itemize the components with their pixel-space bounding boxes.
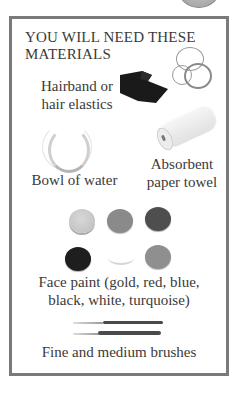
- paint-pot-turquoise-icon: [145, 245, 171, 269]
- hairband-label: Hairband or hair elastics: [32, 77, 122, 113]
- fine-brush-icon: [103, 321, 163, 324]
- paint-pot-blue-icon: [145, 207, 171, 231]
- fine-brush-tip-icon: [73, 322, 103, 324]
- towel-label-line2: paper towel: [142, 173, 222, 191]
- decorative-circle: [178, 0, 220, 8]
- bowl-icon: [48, 127, 90, 173]
- paint-label-line2: black, white, turquoise): [12, 291, 226, 309]
- hairband-label-line2: hair elastics: [32, 95, 122, 113]
- paint-label: Face paint (gold, red, blue, black, whit…: [12, 273, 226, 309]
- medium-brush-icon: [98, 331, 161, 335]
- brushes-label: Fine and medium brushes: [12, 343, 226, 361]
- paint-pot-red-icon: [107, 209, 133, 233]
- materials-panel: YOU WILL NEED THESE MATERIALS Hairband o…: [9, 16, 229, 376]
- towel-label-line1: Absorbent: [142, 155, 222, 173]
- paint-label-line1: Face paint (gold, red, blue,: [12, 273, 226, 291]
- hairband-label-line1: Hairband or: [32, 77, 122, 95]
- bowl-label: Bowl of water: [22, 171, 127, 189]
- towel-label: Absorbent paper towel: [142, 155, 222, 191]
- medium-brush-tip-icon: [73, 333, 99, 335]
- paint-pot-gold-icon: [69, 209, 95, 233]
- hair-elastic-icon: [184, 63, 212, 89]
- paint-pot-black-icon: [65, 247, 91, 271]
- hairband-icon: [118, 67, 172, 105]
- paint-pot-white-icon: [108, 251, 134, 265]
